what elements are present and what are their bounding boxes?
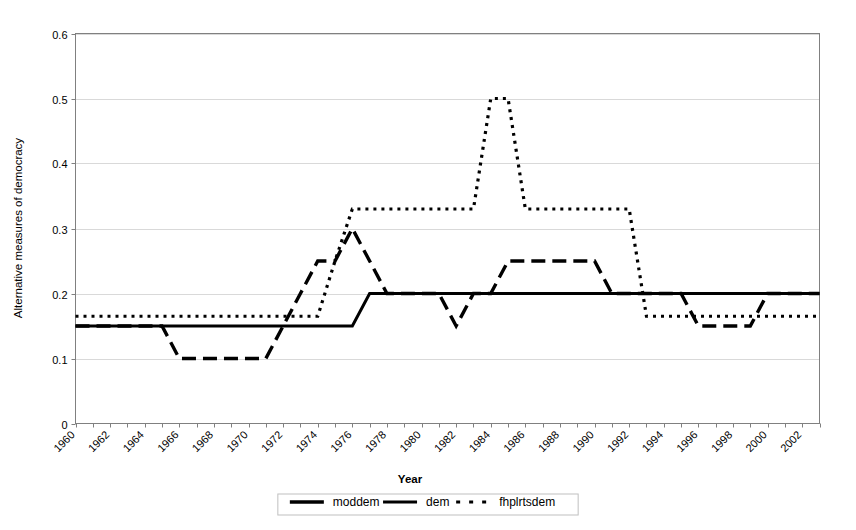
y-axis-title: Alternative measures of democracy <box>12 138 24 318</box>
y-tick-label: 0.1 <box>52 354 67 366</box>
y-tick-label: 0.6 <box>52 29 67 41</box>
chart-container: 00.10.20.30.40.50.6 19601962196419661968… <box>0 0 856 530</box>
chart-legend: moddemdemfhplrtsdem <box>278 494 578 515</box>
y-tick-label: 0 <box>61 419 67 431</box>
y-tick-label: 0.2 <box>52 289 67 301</box>
y-tick-label: 0.4 <box>52 158 67 170</box>
y-tick-label: 0.3 <box>52 224 67 236</box>
legend-label-dem: dem <box>426 495 449 509</box>
legend-label-moddem: moddem <box>333 495 380 509</box>
democracy-measures-line-chart: 00.10.20.30.40.50.6 19601962196419661968… <box>0 0 856 530</box>
y-tick-label: 0.5 <box>52 94 67 106</box>
x-axis-title: Year <box>398 473 423 485</box>
legend-label-fhplrtsdem: fhplrtsdem <box>499 495 555 509</box>
